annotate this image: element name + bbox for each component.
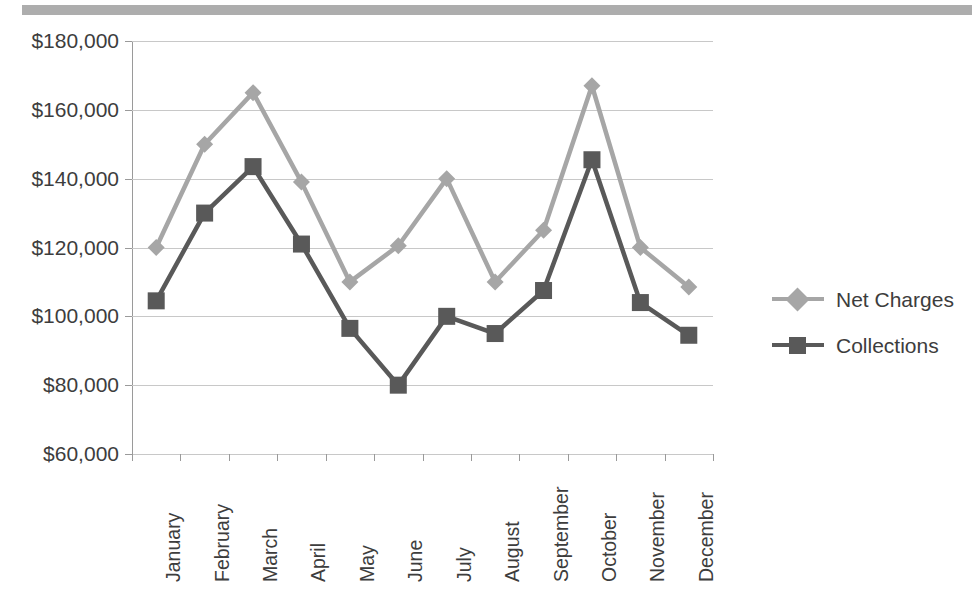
y-axis-tick-label: $100,000	[31, 305, 119, 326]
data-point-marker	[680, 327, 697, 344]
legend-label: Net Charges	[836, 289, 954, 310]
x-axis-tick-mark	[713, 454, 714, 461]
y-axis-tick-mark	[125, 316, 132, 317]
series-layer	[132, 41, 713, 454]
x-axis-tick-mark	[180, 454, 181, 461]
x-axis-tick-label: July	[455, 547, 475, 582]
data-point-marker	[293, 236, 310, 253]
data-point-marker	[390, 377, 407, 394]
x-axis-tick-mark	[568, 454, 569, 461]
series-line-collections	[156, 160, 689, 385]
plot-area	[132, 41, 713, 454]
y-axis-tick-label: $160,000	[31, 99, 119, 120]
data-point-marker	[583, 77, 600, 94]
y-axis-tick-mark	[125, 110, 132, 111]
data-point-marker	[293, 174, 310, 191]
data-point-marker	[341, 320, 358, 337]
x-axis-tick-label: August	[503, 521, 523, 582]
data-point-marker	[245, 158, 262, 175]
y-axis-tick-label: $140,000	[31, 168, 119, 189]
data-point-marker	[583, 151, 600, 168]
x-axis-tick-mark	[519, 454, 520, 461]
y-axis-tick-mark	[125, 248, 132, 249]
x-axis-tick-label: October	[600, 513, 620, 582]
data-point-marker	[632, 294, 649, 311]
x-axis-tick-mark	[471, 454, 472, 461]
data-point-marker	[196, 205, 213, 222]
data-point-marker	[535, 282, 552, 299]
x-axis-tick-label: May	[358, 545, 378, 582]
y-axis-tick-label: $60,000	[43, 443, 119, 464]
x-axis-tick-label: September	[552, 487, 572, 582]
y-axis-tick-label: $120,000	[31, 237, 119, 258]
x-axis-tick-label: December	[697, 492, 717, 582]
data-point-marker	[487, 325, 504, 342]
data-point-marker	[148, 292, 165, 309]
x-axis-tick-mark	[374, 454, 375, 461]
y-axis-tick-label: $180,000	[31, 30, 119, 51]
y-axis-tick-label: $80,000	[43, 374, 119, 395]
legend-item-net-charges[interactable]: Net Charges	[772, 276, 972, 322]
legend-item-collections[interactable]: Collections	[772, 322, 972, 368]
x-axis-tick-mark	[132, 454, 133, 461]
x-axis-tick-label: January	[164, 513, 184, 582]
diamond-marker-icon	[772, 286, 824, 312]
x-axis-tick-label: April	[309, 543, 329, 582]
x-axis-tick-mark	[665, 454, 666, 461]
chart-legend: Net ChargesCollections	[772, 276, 972, 368]
y-axis-tick-mark	[125, 385, 132, 386]
x-axis-tick-mark	[326, 454, 327, 461]
y-axis-tick-mark	[125, 454, 132, 455]
series-line-net-charges	[156, 86, 689, 287]
x-axis-tick-label: November	[648, 492, 668, 582]
x-axis-tick-mark	[277, 454, 278, 461]
x-axis-tick-label: June	[406, 540, 426, 582]
x-axis-tick-mark	[229, 454, 230, 461]
data-point-marker	[438, 308, 455, 325]
square-marker-icon	[772, 332, 824, 358]
x-axis-tick-label: February	[213, 504, 233, 582]
y-axis-tick-mark	[125, 41, 132, 42]
y-axis-tick-mark	[125, 179, 132, 180]
legend-label: Collections	[836, 335, 939, 356]
x-axis-tick-mark	[616, 454, 617, 461]
x-axis-tick-mark	[423, 454, 424, 461]
x-axis-tick-label: March	[261, 528, 281, 582]
data-point-marker	[148, 239, 165, 256]
